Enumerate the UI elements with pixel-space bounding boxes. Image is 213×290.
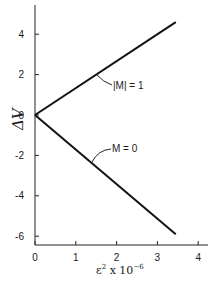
y-axis-label: ΔV — [9, 106, 27, 131]
leader-m0 — [92, 149, 111, 162]
y-tick-label: -6 — [15, 231, 24, 242]
series-line — [35, 115, 176, 234]
x-tick-label: 0 — [32, 252, 38, 263]
x-axis-label: ε2 x 10−6 — [96, 263, 144, 277]
x-axis-label-mid: x 10 — [106, 264, 133, 277]
y-tick-label: -4 — [15, 190, 24, 201]
chart: 420-2-4-601234 |M| = 1 M = 0 ΔV ε2 x 10−… — [0, 0, 213, 290]
series — [35, 22, 176, 234]
series-line — [35, 22, 176, 115]
axes — [35, 5, 208, 245]
x-tick-label: 2 — [114, 252, 120, 263]
x-tick-label: 1 — [73, 252, 79, 263]
x-tick-label: 4 — [195, 252, 201, 263]
annotation-m0: M = 0 — [112, 143, 138, 154]
x-axis-label-exp: −6 — [133, 263, 144, 271]
leader-m1 — [97, 75, 112, 85]
annotation-m1: |M| = 1 — [113, 80, 144, 91]
y-tick-label: 2 — [18, 69, 24, 80]
y-tick-label: 4 — [18, 29, 24, 40]
ticks: 420-2-4-601234 — [15, 29, 201, 263]
x-tick-label: 3 — [155, 252, 161, 263]
y-tick-label: -2 — [15, 150, 24, 161]
